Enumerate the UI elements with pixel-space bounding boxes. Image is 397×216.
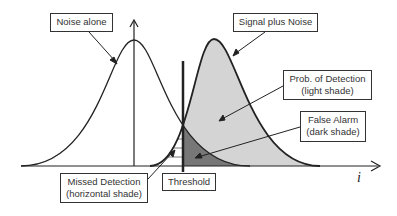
threshold-text: Threshold — [168, 176, 210, 187]
prob-detection-text: Prob. of Detection — [287, 73, 368, 85]
noise-alone-label: Noise alone — [50, 13, 113, 32]
signal-plus-noise-label: Signal plus Noise — [233, 13, 318, 32]
arrow-icon — [110, 57, 117, 64]
arrow-icon — [233, 49, 239, 56]
threshold-label: Threshold — [162, 173, 216, 191]
missed-detection-area — [140, 94, 183, 157]
horizontal-shade-text: (horizontal shade) — [64, 188, 144, 200]
missed-detection-text: Missed Detection — [64, 176, 144, 188]
noise-alone-text: Noise alone — [56, 16, 106, 27]
missed-detection-label: Missed Detection (horizontal shade) — [60, 173, 148, 203]
prob-detection-label: Prob. of Detection (light shade) — [283, 70, 372, 100]
detection-diagram: Noise alone Signal plus Noise Prob. of D… — [0, 0, 397, 216]
x-axis-label: i — [357, 170, 361, 186]
false-alarm-label: False Alarm (dark shade) — [300, 111, 366, 142]
false-alarm-text: False Alarm — [304, 114, 362, 126]
prob-detection-area — [150, 39, 320, 166]
light-shade-text: (light shade) — [287, 85, 368, 97]
signal-plus-noise-text: Signal plus Noise — [239, 16, 312, 27]
dark-shade-text: (dark shade) — [304, 126, 362, 138]
